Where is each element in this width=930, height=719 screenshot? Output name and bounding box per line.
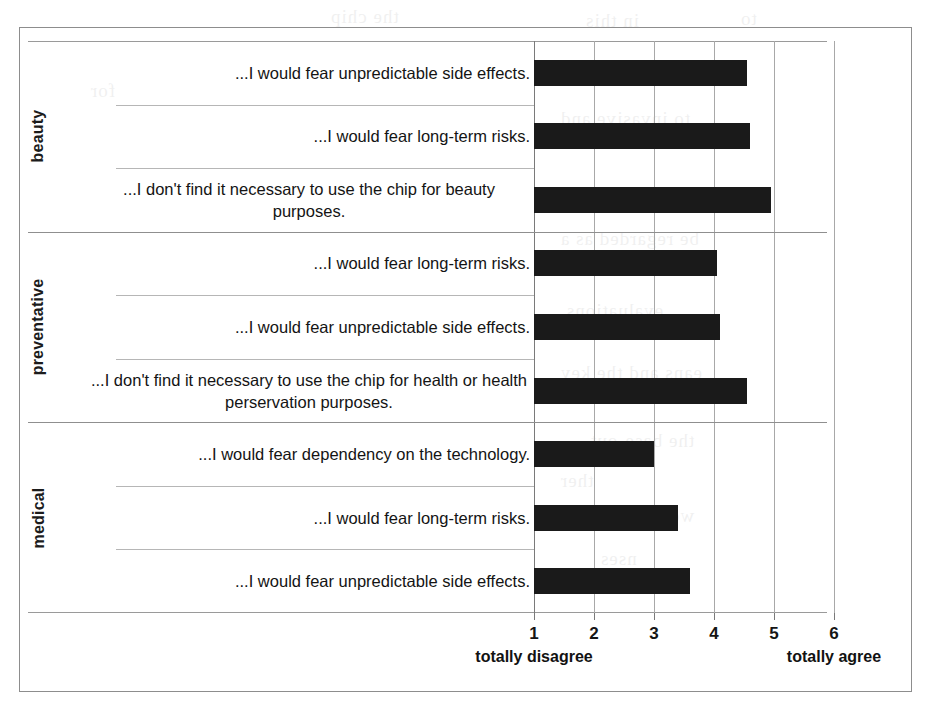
category-label: ...I would fear long-term risks. xyxy=(88,232,534,296)
category-label: ...I would fear long-term risks. xyxy=(88,105,534,169)
tick-mark-6 xyxy=(834,613,835,620)
gridline-5 xyxy=(774,41,775,613)
group-label-medical: medical xyxy=(26,422,50,613)
bar xyxy=(534,123,750,149)
category-label: ...I would fear long-term risks. xyxy=(88,486,534,550)
bar xyxy=(534,441,654,467)
gridline-6 xyxy=(834,41,835,613)
category-label: ...I would fear dependency on the techno… xyxy=(88,422,534,486)
chart-plot: beauty...I would fear unpredictable side… xyxy=(20,28,913,693)
x-axis-tick-label-2: 2 xyxy=(589,624,598,644)
x-axis-tick-label-1: 1 xyxy=(529,624,538,644)
bar xyxy=(534,378,747,404)
category-label: ...I don't find it necessary to use the … xyxy=(88,168,534,232)
group-label-preventative: preventative xyxy=(26,232,50,423)
tick-mark-5 xyxy=(774,613,775,620)
group-label-beauty: beauty xyxy=(26,41,50,232)
scale-label-high: totally agree xyxy=(787,648,881,666)
plot-area: beauty...I would fear unpredictable side… xyxy=(28,41,827,613)
x-axis-tick-label-3: 3 xyxy=(649,624,658,644)
tick-mark-4 xyxy=(714,613,715,620)
x-axis-tick-label-6: 6 xyxy=(829,624,838,644)
category-label: ...I would fear unpredictable side effec… xyxy=(88,549,534,613)
bar xyxy=(534,314,720,340)
bar xyxy=(534,505,678,531)
tick-mark-2 xyxy=(594,613,595,620)
tick-mark-3 xyxy=(654,613,655,620)
category-label: ...I would fear unpredictable side effec… xyxy=(88,295,534,359)
bar xyxy=(534,60,747,86)
chart-frame: beauty...I would fear unpredictable side… xyxy=(19,27,912,692)
bar xyxy=(534,187,771,213)
bar xyxy=(534,568,690,594)
x-axis-tick-label-4: 4 xyxy=(709,624,718,644)
category-label: ...I would fear unpredictable side effec… xyxy=(88,41,534,105)
group-label-text: preventative xyxy=(29,279,47,376)
bar xyxy=(534,250,717,276)
group-label-text: medical xyxy=(29,487,47,548)
category-label: ...I don't find it necessary to use the … xyxy=(88,359,534,423)
tick-mark-1 xyxy=(534,613,535,620)
x-axis-tick-label-5: 5 xyxy=(769,624,778,644)
group-label-text: beauty xyxy=(29,110,47,163)
scale-label-low: totally disagree xyxy=(475,648,592,666)
